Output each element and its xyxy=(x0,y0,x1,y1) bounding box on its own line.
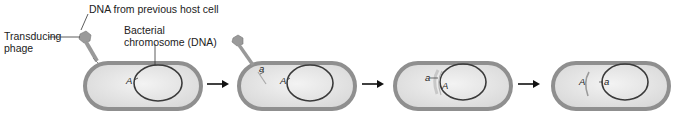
gene-label: A xyxy=(442,80,448,91)
arrow-icon xyxy=(362,80,384,88)
cell-panel-1 xyxy=(85,63,201,109)
leader-line-dna xyxy=(81,14,88,30)
cell-panel-4 xyxy=(553,63,669,109)
arrow-icon xyxy=(518,80,540,88)
phage-icon xyxy=(79,31,98,63)
gene-label: A xyxy=(280,75,286,86)
transducing-phage-label-1: Transducing xyxy=(4,30,61,42)
gene-label: A xyxy=(579,76,585,87)
transducing-phage-label-2: phage xyxy=(4,42,33,54)
phage-icon xyxy=(232,35,253,65)
gene-label: a xyxy=(604,76,609,87)
dna-from-host-label: DNA from previous host cell xyxy=(89,3,219,15)
gene-label: A xyxy=(126,75,132,86)
gene-label: a xyxy=(259,63,264,74)
cell-panel-2 xyxy=(239,63,355,109)
diagram-graphics xyxy=(0,0,685,116)
cell-panel-3 xyxy=(395,63,511,109)
arrow-icon xyxy=(207,80,229,88)
gene-label: a xyxy=(425,72,430,83)
bacterial-chromosome-label-2: chromosome (DNA) xyxy=(124,36,217,48)
transduction-diagram: Transducing phage DNA from previous host… xyxy=(0,0,685,116)
bacterial-chromosome-label-1: Bacterial xyxy=(124,24,165,36)
